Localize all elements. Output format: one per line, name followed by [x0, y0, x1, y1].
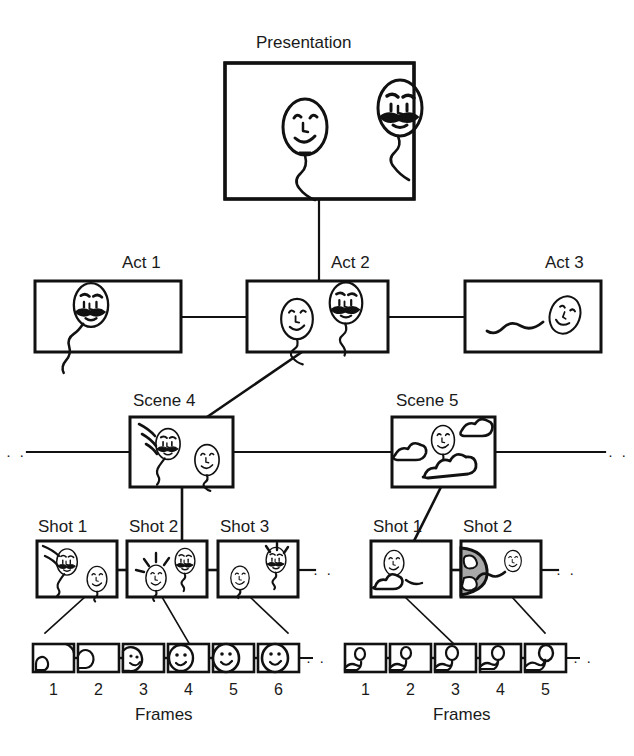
frames-caption-right: Frames	[433, 706, 491, 723]
scene-5-label: Scene 5	[396, 392, 458, 409]
left-shot-row-ellipsis: · ·	[313, 565, 333, 580]
presentation-box[interactable]	[225, 63, 422, 200]
hierarchy-diagram-artwork	[0, 0, 634, 756]
frame-number: 5	[213, 682, 254, 698]
scene-4-label: Scene 4	[133, 392, 195, 409]
frame-box[interactable]	[345, 644, 386, 672]
frame-box[interactable]	[168, 644, 209, 672]
left-shot-2-label: Shot 2	[129, 518, 178, 535]
act-1-label: Act 1	[122, 254, 161, 271]
frame-box[interactable]	[390, 644, 431, 672]
right-shot-1-label: Shot 1	[373, 518, 422, 535]
act-2-box[interactable]	[247, 281, 388, 364]
left-shot-1-label: Shot 1	[38, 518, 87, 535]
frame-box[interactable]	[123, 644, 164, 672]
right-shot-1-box[interactable]	[371, 541, 451, 597]
frame-number: 1	[33, 682, 74, 698]
right-shot-2-label: Shot 2	[463, 518, 512, 535]
left-shot-2-box[interactable]	[127, 541, 207, 601]
scene-4-box[interactable]	[130, 417, 233, 491]
left-frame-row-ellipsis: · ·	[306, 653, 326, 668]
left-shot-1-box[interactable]	[37, 541, 117, 602]
frame-box[interactable]	[480, 644, 521, 672]
frame-number: 6	[258, 682, 299, 698]
act-3-box[interactable]	[465, 281, 601, 352]
right-shot-2-box[interactable]	[461, 541, 541, 597]
frame-box[interactable]	[213, 644, 254, 672]
frame-box[interactable]	[78, 644, 119, 672]
right-frame-row-ellipsis: · ·	[573, 653, 593, 668]
frame-number: 4	[168, 682, 209, 698]
frame-number: 5	[525, 682, 566, 698]
frame-number: 4	[480, 682, 521, 698]
right-shot-row-ellipsis: · ·	[556, 565, 576, 580]
scene-row-left-ellipsis: · ·	[6, 447, 26, 462]
frames-caption-left: Frames	[135, 706, 193, 723]
scene-5-box[interactable]	[392, 417, 495, 487]
act-2-label: Act 2	[331, 254, 370, 271]
frame-box[interactable]	[33, 644, 74, 672]
frame-number: 1	[345, 682, 386, 698]
right-frame-strip	[345, 644, 566, 672]
frame-number: 2	[78, 682, 119, 698]
presentation-label: Presentation	[256, 34, 351, 51]
frame-number: 3	[435, 682, 476, 698]
scene-row-right-ellipsis: · ·	[608, 447, 628, 462]
left-shot-3-box[interactable]	[218, 541, 298, 598]
frame-box[interactable]	[525, 644, 566, 672]
figure-canvas: Presentation Act 1 Act 2 Act 3 Scene 4 S…	[0, 0, 634, 756]
frame-box[interactable]	[435, 644, 476, 672]
frame-number: 3	[123, 682, 164, 698]
act-3-label: Act 3	[545, 254, 584, 271]
act-1-box[interactable]	[35, 281, 181, 373]
frame-number: 2	[390, 682, 431, 698]
left-shot-3-label: Shot 3	[220, 518, 269, 535]
frame-box[interactable]	[258, 644, 299, 672]
